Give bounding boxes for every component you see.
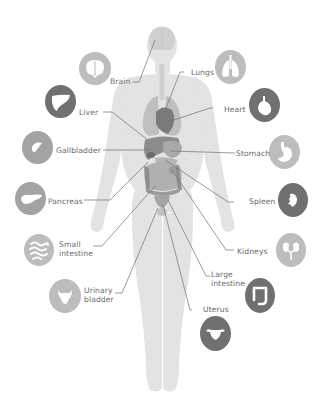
anatomy-diagram: Brain Lungs Liver Heart Gallbladder Stom… (0, 0, 325, 414)
uterus-icon (200, 316, 231, 351)
label-small-intestine-line2: intestine (59, 249, 93, 258)
label-lungs: Lungs (191, 68, 214, 77)
label-uterus: Uterus (203, 305, 229, 314)
label-small-intestine-line1: Small (59, 240, 93, 249)
kidneys-icon (276, 233, 306, 267)
label-liver: Liver (79, 108, 98, 117)
lungs-icon (215, 50, 246, 84)
brain-icon (79, 52, 111, 85)
large-intestine-icon (245, 278, 275, 313)
label-spleen: Spleen (249, 197, 276, 206)
urinary-bladder-icon (49, 279, 81, 313)
label-large-intestine: Large intestine (211, 270, 245, 288)
liver-icon (45, 85, 76, 118)
label-large-intestine-line2: intestine (211, 279, 245, 288)
label-small-intestine: Small intestine (59, 240, 93, 258)
label-urinary-bladder-line2: bladder (84, 295, 114, 304)
small-intestine-icon (24, 234, 54, 266)
stomach-icon (269, 135, 300, 169)
body-silhouette (0, 0, 325, 414)
label-stomach: Stomach (236, 149, 270, 158)
label-kidneys: Kidneys (237, 247, 268, 256)
label-gallbladder: Gallbladder (56, 146, 101, 155)
label-pancreas: Pancreas (48, 197, 83, 206)
label-urinary-bladder: Urinary bladder (84, 286, 114, 304)
gallbladder-icon (22, 131, 53, 164)
spleen-icon (278, 183, 308, 217)
label-heart: Heart (224, 105, 246, 114)
label-urinary-bladder-line1: Urinary (84, 286, 114, 295)
pancreas-icon (15, 182, 46, 215)
heart-icon (249, 88, 280, 122)
label-large-intestine-line1: Large (211, 270, 245, 279)
label-brain: Brain (110, 77, 130, 86)
